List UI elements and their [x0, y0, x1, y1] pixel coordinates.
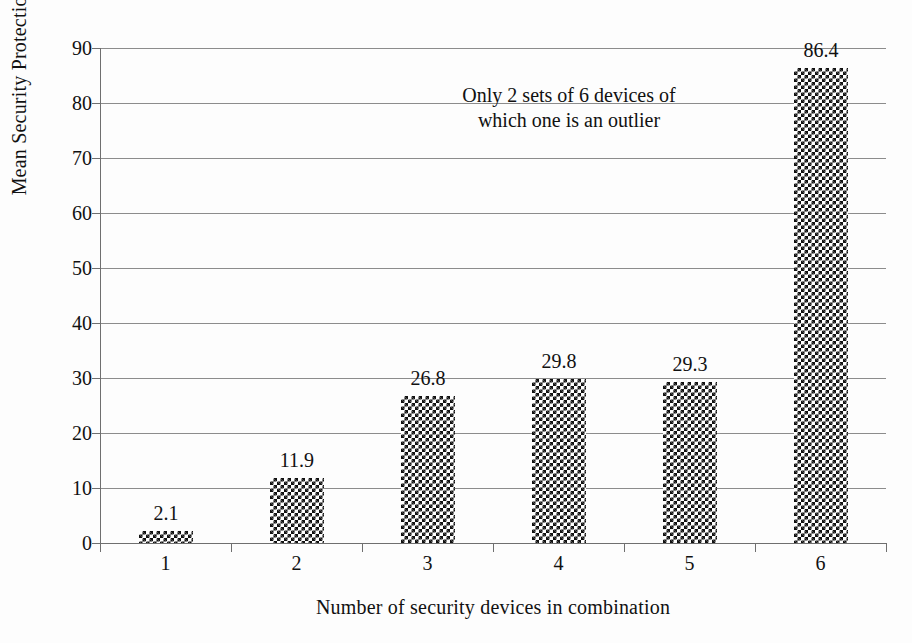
- gridline-20: [100, 433, 886, 434]
- gridline-30: [100, 378, 886, 379]
- y-tick-mark-30: [92, 378, 101, 379]
- y-tick-mark-20: [92, 433, 101, 434]
- gridline-90: [100, 48, 886, 49]
- y-tick-label-70: 70: [52, 148, 92, 168]
- gridline-50: [100, 268, 886, 269]
- y-axis-tick-labels: 0102030405060708090: [48, 48, 92, 543]
- bar-1[interactable]: [139, 531, 193, 543]
- x-tick-label-5: 5: [660, 552, 720, 575]
- y-tick-label-20: 20: [52, 423, 92, 443]
- gridline-10: [100, 488, 886, 489]
- y-axis-title: Mean Security Protection Factor: [8, 0, 44, 322]
- y-tick-label-40: 40: [52, 313, 92, 333]
- bar-2[interactable]: [270, 478, 324, 543]
- y-tick-mark-70: [92, 158, 101, 159]
- x-tick-mark-3: [493, 543, 494, 552]
- x-tick-mark-5: [755, 543, 756, 552]
- x-tick-mark-6: [886, 543, 887, 552]
- y-tick-mark-10: [92, 488, 101, 489]
- y-tick-mark-40: [92, 323, 101, 324]
- y-tick-mark-60: [92, 213, 101, 214]
- x-tick-label-6: 6: [791, 552, 851, 575]
- gridline-40: [100, 323, 886, 324]
- x-tick-mark-4: [624, 543, 625, 552]
- outlier-annotation: Only 2 sets of 6 devices of which one is…: [404, 83, 734, 133]
- y-tick-label-0: 0: [52, 533, 92, 553]
- x-tick-mark-1: [231, 543, 232, 552]
- y-tick-label-80: 80: [52, 93, 92, 113]
- y-tick-label-30: 30: [52, 368, 92, 388]
- x-axis-title: Number of security devices in combinatio…: [100, 596, 886, 619]
- y-tick-mark-80: [92, 103, 101, 104]
- x-tick-label-1: 1: [136, 552, 196, 575]
- bar-5[interactable]: [663, 382, 717, 543]
- x-tick-label-4: 4: [529, 552, 589, 575]
- bar-value-label-4: 29.8: [514, 351, 604, 371]
- y-tick-label-90: 90: [52, 38, 92, 58]
- gridline-60: [100, 213, 886, 214]
- gridline-70: [100, 158, 886, 159]
- bar-chart-figure: Mean Security Protection Factor 01020304…: [0, 0, 912, 643]
- annotation-line-2: which one is an outlier: [404, 108, 734, 133]
- x-tick-label-3: 3: [398, 552, 458, 575]
- bar-value-label-3: 26.8: [383, 368, 473, 388]
- y-tick-label-50: 50: [52, 258, 92, 278]
- bar-6[interactable]: [794, 68, 848, 543]
- y-tick-mark-50: [92, 268, 101, 269]
- bar-value-label-6: 86.4: [776, 40, 866, 60]
- bar-value-label-1: 2.1: [121, 503, 211, 523]
- x-tick-label-2: 2: [267, 552, 327, 575]
- y-tick-label-60: 60: [52, 203, 92, 223]
- bar-4[interactable]: [532, 379, 586, 543]
- bar-value-label-2: 11.9: [252, 450, 342, 470]
- bar-value-label-5: 29.3: [645, 354, 735, 374]
- y-tick-label-10: 10: [52, 478, 92, 498]
- x-tick-mark-0: [100, 543, 101, 552]
- x-tick-mark-2: [362, 543, 363, 552]
- bar-3[interactable]: [401, 396, 455, 543]
- y-tick-mark-90: [92, 48, 101, 49]
- annotation-line-1: Only 2 sets of 6 devices of: [404, 83, 734, 108]
